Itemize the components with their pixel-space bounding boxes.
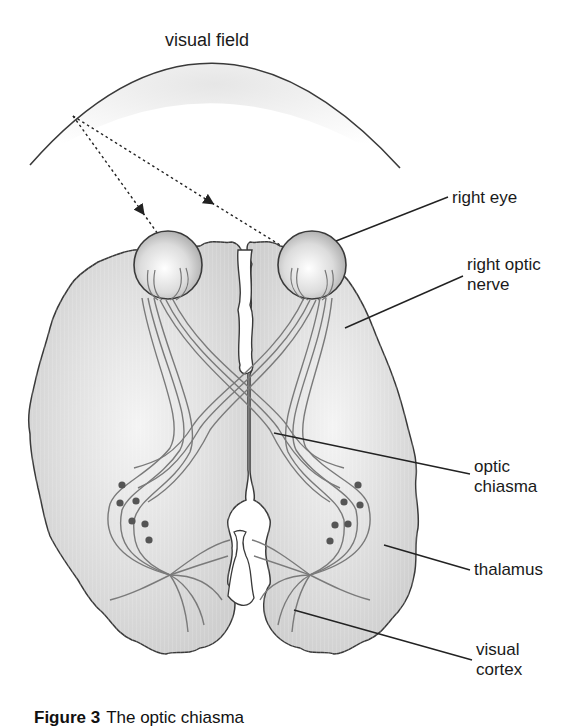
- top-fissure: [238, 250, 253, 374]
- visual-field-arc: [30, 63, 400, 168]
- right-eye-label: right eye: [452, 188, 517, 208]
- leader-right-optic-nerve: [345, 276, 463, 328]
- right-eye: [278, 231, 346, 300]
- thalamus-label: thalamus: [474, 560, 543, 580]
- visual-cortex-label-line2: cortex: [476, 660, 522, 680]
- right-hemisphere: [247, 242, 418, 654]
- ray-to-left-eye: [73, 116, 143, 213]
- optic-chiasma-label-line2: chiasma: [474, 477, 537, 497]
- figure-caption-text: The optic chiasma: [106, 708, 244, 727]
- ray-to-right-eye: [73, 116, 212, 203]
- figure-number: Figure 3: [34, 708, 100, 727]
- visual-cortex-label-line1: visual: [476, 640, 519, 660]
- optic-chiasma-label-line1: optic: [474, 457, 510, 477]
- leader-right-eye: [336, 197, 448, 241]
- left-eye: [134, 231, 202, 300]
- right-optic-nerve-label-line1: right optic: [467, 255, 541, 275]
- figure-caption: Figure 3The optic chiasma: [34, 708, 244, 728]
- visual-field-label: visual field: [165, 30, 249, 50]
- right-optic-nerve-label-line2: nerve: [467, 275, 510, 295]
- brain-hemispheres: [29, 240, 420, 655]
